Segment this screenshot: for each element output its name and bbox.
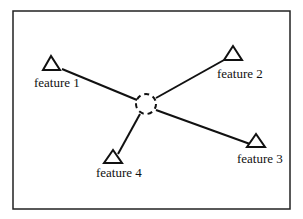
link-feature-4 xyxy=(118,114,140,154)
feature-4-label: feature 4 xyxy=(96,166,142,179)
diagram-canvas xyxy=(0,0,303,219)
link-feature-3 xyxy=(156,110,250,144)
center-dashed-circle-icon xyxy=(136,94,156,114)
feature-2-triangle-icon xyxy=(224,46,242,60)
feature-3-label: feature 3 xyxy=(237,152,283,165)
feature-1-label: feature 1 xyxy=(34,76,80,89)
link-feature-2 xyxy=(156,60,224,98)
frame-border xyxy=(13,11,290,209)
feature-3-triangle-icon xyxy=(247,134,265,147)
feature-1-triangle-icon xyxy=(43,56,60,70)
feature-2-label: feature 2 xyxy=(217,67,263,80)
